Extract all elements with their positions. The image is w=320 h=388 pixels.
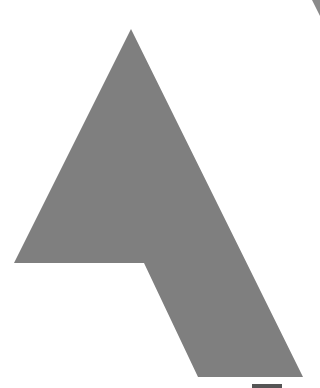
letter-a-body [14, 29, 303, 377]
bottom-bar [252, 384, 282, 388]
letter-a-shape [0, 0, 320, 388]
corner-arc [312, 0, 320, 16]
